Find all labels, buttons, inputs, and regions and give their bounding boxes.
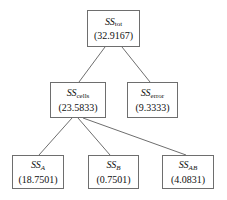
- node-ss-tot-value: (32.9167): [94, 30, 133, 41]
- node-ss-cells-value: (23.5833): [58, 102, 97, 113]
- node-ss-b-value: (0.7501): [96, 174, 130, 185]
- node-ss-a-symbol: SSA: [31, 159, 45, 172]
- node-ss-cells-symbol: SScells: [67, 87, 90, 100]
- node-ss-ab: SSAB (4.0831): [162, 155, 214, 189]
- node-ss-ab-value: (4.0831): [171, 174, 205, 185]
- node-ss-error-value: (9.3333): [135, 102, 169, 113]
- edge-sstot-sscells: [79, 47, 105, 82]
- edge-sscells-ssa: [39, 118, 72, 155]
- node-ss-error-symbol: SSerror: [141, 87, 164, 100]
- diagram-canvas: SStot (32.9167) SScells (23.5833) SSerro…: [0, 0, 227, 200]
- node-ss-tot: SStot (32.9167): [87, 10, 140, 47]
- node-ss-error: SSerror (9.3333): [127, 82, 178, 118]
- node-ss-ab-symbol: SSAB: [179, 159, 197, 172]
- edge-sscells-ssb: [78, 118, 110, 155]
- node-ss-b-symbol: SSB: [106, 159, 120, 172]
- edge-sstot-sserror: [122, 47, 150, 82]
- edge-sscells-ssab: [83, 118, 186, 155]
- node-ss-tot-symbol: SStot: [105, 16, 122, 29]
- node-ss-a: SSA (18.7501): [12, 155, 64, 189]
- node-ss-cells: SScells (23.5833): [50, 82, 106, 118]
- node-ss-b: SSB (0.7501): [88, 155, 139, 189]
- node-ss-a-value: (18.7501): [18, 174, 57, 185]
